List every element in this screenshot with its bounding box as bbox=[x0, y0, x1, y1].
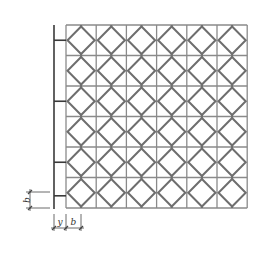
diamond-tile bbox=[158, 88, 185, 116]
diamond-tile bbox=[219, 57, 246, 85]
diamond-tile bbox=[188, 149, 215, 177]
diamond-tile bbox=[188, 88, 215, 116]
diamond-tile bbox=[219, 88, 246, 116]
diamond-tile bbox=[98, 149, 125, 177]
diamond-tile bbox=[68, 88, 95, 116]
diamond-tile bbox=[128, 88, 155, 116]
diamond-tile bbox=[98, 57, 125, 85]
diamond-tile bbox=[128, 27, 155, 55]
diamond-tile bbox=[128, 118, 155, 146]
diamond-tile bbox=[68, 27, 95, 55]
grid-lines bbox=[66, 25, 247, 208]
diamond-tile bbox=[188, 179, 215, 207]
diamond-tile bbox=[68, 118, 95, 146]
dimension-label-b-vertical: b bbox=[22, 197, 32, 203]
diamond-tile bbox=[219, 179, 246, 207]
diamond-tile bbox=[158, 179, 185, 207]
diamond-tile bbox=[128, 179, 155, 207]
diamond-tile bbox=[219, 27, 246, 55]
dimension-annotations: b y b bbox=[22, 189, 84, 231]
diamond-tile bbox=[68, 57, 95, 85]
diamond-tile bbox=[68, 149, 95, 177]
diamond-tile bbox=[98, 118, 125, 146]
dimension-label-y: y bbox=[56, 217, 63, 227]
diamond-tile bbox=[128, 149, 155, 177]
dimension-label-b-horizontal: b bbox=[71, 217, 77, 227]
diamond-tile bbox=[158, 27, 185, 55]
diamond-tile bbox=[188, 57, 215, 85]
diamond-tile bbox=[219, 118, 246, 146]
support-bar bbox=[54, 25, 66, 209]
diamond-tile bbox=[188, 27, 215, 55]
diamond-tile bbox=[188, 118, 215, 146]
diamond-tile bbox=[98, 179, 125, 207]
diamond-tile bbox=[219, 149, 246, 177]
diamond-tile bbox=[128, 57, 155, 85]
tile-pattern-diagram: b y b bbox=[0, 0, 264, 254]
diamond-tile bbox=[98, 27, 125, 55]
diamond-tile bbox=[158, 118, 185, 146]
diamond-tile bbox=[158, 149, 185, 177]
diamond-tile bbox=[68, 179, 95, 207]
diamond-tile bbox=[158, 57, 185, 85]
diamond-tile bbox=[98, 88, 125, 116]
